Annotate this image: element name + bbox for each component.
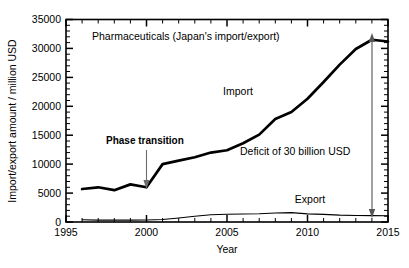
import-label: Import <box>223 85 253 97</box>
y-tick-label: 10000 <box>32 158 61 170</box>
y-tick-label: 30000 <box>32 42 61 54</box>
x-tick-label: 2000 <box>135 226 159 238</box>
y-axis-ticks: 0 5000 10000 15000 20000 25000 30000 <box>32 13 388 228</box>
x-tick-label: 2005 <box>215 226 239 238</box>
deficit-annotation: Deficit of 30 billion USD <box>240 33 375 218</box>
y-tick-label: 5000 <box>38 187 62 199</box>
deficit-arrow-head-bottom <box>369 209 375 218</box>
deficit-arrow-head-top <box>369 33 375 42</box>
y-tick-label: 35000 <box>32 13 61 25</box>
figure-container: 0 5000 10000 15000 20000 25000 30000 <box>0 0 409 268</box>
y-tick-label: 20000 <box>32 100 61 112</box>
chart-svg: 0 5000 10000 15000 20000 25000 30000 <box>0 0 409 268</box>
y-tick-label: 15000 <box>32 129 61 141</box>
export-series-line <box>82 213 388 220</box>
y-tick-label: 25000 <box>32 71 61 83</box>
x-axis-minor-ticks <box>82 20 372 223</box>
y-axis-title: Import/export amount / million USD <box>6 39 18 203</box>
plot-frame <box>66 20 388 223</box>
x-tick-label: 1995 <box>54 226 78 238</box>
chart-title: Pharmaceuticals (Japan's import/export) <box>92 30 280 42</box>
x-tick-label: 2015 <box>376 226 400 238</box>
y-axis-minor-ticks <box>66 25 388 216</box>
x-axis-title: Year <box>216 243 238 255</box>
export-label: Export <box>295 193 325 205</box>
deficit-label: Deficit of 30 billion USD <box>240 145 351 157</box>
phase-transition-label: Phase transition <box>106 135 184 146</box>
x-tick-label: 2010 <box>296 226 320 238</box>
x-axis-ticks: 1995 2000 2005 2010 2015 <box>54 20 400 239</box>
import-series-line <box>82 40 388 190</box>
